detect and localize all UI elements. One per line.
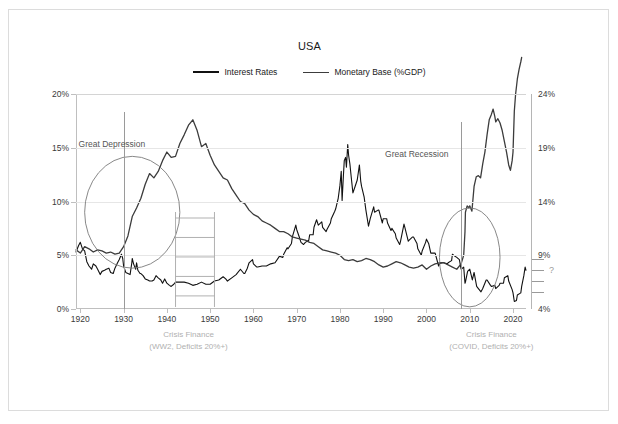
x-axis-tick-label: 1980 [330, 314, 349, 324]
legend-line-icon-monetary-base [303, 72, 329, 73]
great-recession-ellipse [439, 208, 500, 307]
legend-label-interest-rates: Interest Rates [224, 67, 277, 77]
annotation-crisis-finance-covid: Crisis Finance (COVID, Deficits 20%+) [431, 329, 551, 354]
y-axis-left-tick-label: 10% [52, 197, 69, 207]
annotation-great-recession: Great Recession [385, 149, 448, 159]
x-tick [340, 309, 341, 313]
x-tick [124, 309, 125, 313]
crisis-finance-covid-line1: Crisis Finance [431, 329, 551, 341]
x-axis-tick-label: 2020 [504, 314, 523, 324]
legend-label-monetary-base: Monetary Base (%GDP) [334, 67, 425, 77]
crisis-finance-ww2-line1: Crisis Finance [129, 329, 249, 341]
y-axis-right-tick-label: 14% [538, 197, 555, 207]
plot-area: 0%5%10%15%20% 4%9%14%19%24% 192019301940… [76, 94, 526, 309]
vline-great-recession [461, 122, 462, 309]
x-tick [167, 309, 168, 313]
x-tick [470, 309, 471, 313]
forecast-dash-1 [532, 259, 544, 260]
x-tick [253, 309, 254, 313]
annotation-great-depression: Great Depression [79, 139, 146, 149]
x-axis-tick-label: 1930 [114, 314, 133, 324]
y-axis-left-tick-label: 0% [57, 304, 69, 314]
y-axis-left-tick-label: 15% [52, 143, 69, 153]
legend-item-interest-rates[interactable]: Interest Rates [193, 67, 277, 77]
top-cutoff-strip [0, 0, 618, 9]
question-mark-annotation: ? [549, 265, 554, 275]
y-axis-right-tick-label: 24% [538, 89, 555, 99]
annotation-overlay [76, 94, 526, 309]
axis-line-right [531, 94, 532, 309]
y-tick-left [71, 309, 76, 310]
x-tick [80, 309, 81, 313]
x-tick [513, 309, 514, 313]
x-tick [297, 309, 298, 313]
x-axis-tick-label: 1950 [201, 314, 220, 324]
screenshot-root: USA Interest Rates Monetary Base (%GDP) … [0, 0, 618, 424]
x-axis-tick-label: 1940 [157, 314, 176, 324]
x-axis-tick-label: 1970 [287, 314, 306, 324]
great-depression-ellipse [85, 156, 180, 268]
x-tick [383, 309, 384, 313]
x-axis-tick-label: 1990 [374, 314, 393, 324]
y-axis-right-tick-label: 4% [538, 304, 550, 314]
chart-title: USA [9, 40, 610, 52]
forecast-dash-4 [532, 292, 544, 293]
x-tick [426, 309, 427, 313]
chart-canvas: USA Interest Rates Monetary Base (%GDP) … [9, 10, 610, 412]
document-frame: USA Interest Rates Monetary Base (%GDP) … [8, 9, 609, 411]
y-axis-left-tick-label: 5% [57, 250, 69, 260]
legend-line-icon-interest-rates [193, 71, 219, 73]
forecast-dash-2 [532, 270, 544, 271]
crisis-finance-covid-line2: (COVID, Deficits 20%+) [431, 341, 551, 353]
x-axis-tick-label: 1920 [71, 314, 90, 324]
y-axis-left-tick-label: 20% [52, 89, 69, 99]
annotation-crisis-finance-ww2: Crisis Finance (WW2, Deficits 20%+) [129, 329, 249, 354]
x-axis-tick-label: 2010 [460, 314, 479, 324]
x-axis-tick-label: 2000 [417, 314, 436, 324]
x-tick [210, 309, 211, 313]
forecast-dash-3 [532, 281, 544, 282]
x-axis-tick-label: 1960 [244, 314, 263, 324]
crisis-finance-ww2-line2: (WW2, Deficits 20%+) [129, 341, 249, 353]
legend-item-monetary-base[interactable]: Monetary Base (%GDP) [303, 67, 425, 77]
y-axis-right-tick-label: 19% [538, 143, 555, 153]
